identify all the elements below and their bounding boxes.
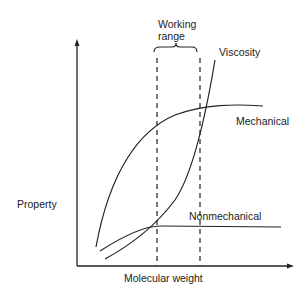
viscosity-curve bbox=[105, 60, 215, 259]
x-axis-arrow bbox=[287, 264, 294, 269]
working-range-label-line2: range bbox=[158, 30, 185, 42]
working-range-brace bbox=[154, 43, 197, 52]
nonmechanical-label: Nonmechanical bbox=[189, 210, 261, 222]
x-axis-label: Molecular weight bbox=[124, 272, 203, 284]
viscosity-label: Viscosity bbox=[219, 46, 260, 58]
diagram: Working range Viscosity Mechanical Nonme… bbox=[0, 0, 308, 293]
mechanical-label: Mechanical bbox=[236, 115, 289, 127]
nonmechanical-curve bbox=[100, 226, 281, 251]
diagram-canvas bbox=[0, 0, 308, 293]
y-axis-label: Property bbox=[17, 198, 57, 210]
working-range-label-line1: Working bbox=[158, 18, 196, 30]
y-axis-arrow bbox=[75, 39, 80, 46]
